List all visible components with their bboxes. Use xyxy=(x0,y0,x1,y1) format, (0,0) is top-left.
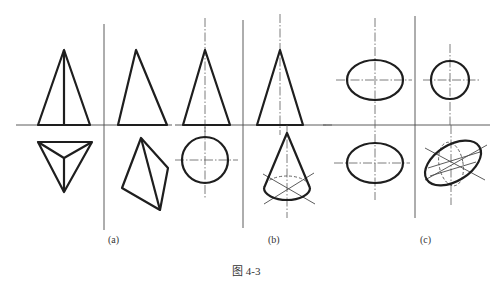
pyramid-side-view xyxy=(118,50,167,125)
figure-caption: 图 4-3 xyxy=(232,262,260,278)
subfigure-a xyxy=(16,24,172,230)
cone-front-view xyxy=(183,50,230,125)
pyramid-oblique-view xyxy=(122,138,168,210)
subfigure-label-b: (b) xyxy=(268,234,280,245)
subfigure-label-a: (a) xyxy=(108,234,119,245)
subfigure-c xyxy=(323,16,490,218)
subfigure-b xyxy=(175,14,332,228)
subfigure-label-c: (c) xyxy=(420,234,431,245)
